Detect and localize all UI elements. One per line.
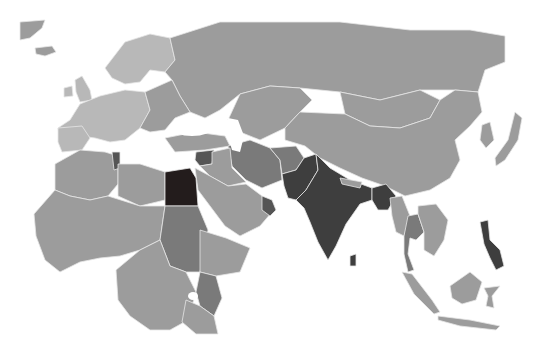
ireland-shape <box>64 86 73 97</box>
greenland-shape <box>20 20 45 40</box>
sumatra-shape <box>402 272 440 314</box>
sri-lanka-shape <box>350 254 356 266</box>
libya-shape <box>118 164 165 206</box>
borneo-shape <box>450 272 482 304</box>
uk-shape <box>75 76 92 102</box>
japan-shape <box>495 112 522 166</box>
syria-shape <box>195 150 214 166</box>
philippines-shape <box>480 220 504 270</box>
java-shape <box>438 316 500 330</box>
choropleth-map <box>0 0 546 356</box>
ethiopia-shape <box>200 230 250 276</box>
sulawesi-shape <box>484 286 500 308</box>
korea-shape <box>480 122 494 148</box>
morocco-algeria-shape <box>55 150 118 200</box>
scandinavia-shape <box>105 34 175 84</box>
egypt-shape <box>165 168 198 206</box>
lake-victoria <box>188 292 198 300</box>
black-sea <box>172 120 212 136</box>
iceland-shape <box>35 46 56 56</box>
